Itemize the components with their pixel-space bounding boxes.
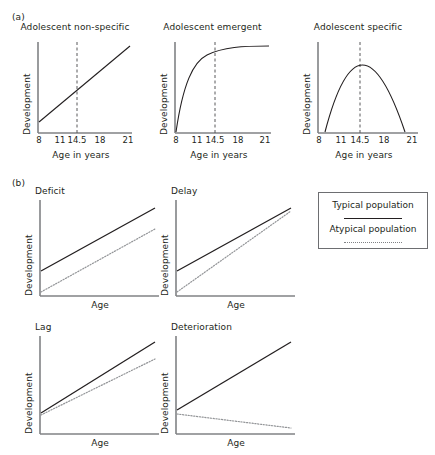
series-atypical-population xyxy=(177,211,291,292)
x-tick-label: 14.5 xyxy=(350,135,370,145)
legend-label-atypical: Atypical population xyxy=(319,224,427,234)
x-tick-label: 18 xyxy=(93,135,107,145)
x-axis-label: Age xyxy=(176,438,296,448)
chart-deterioration: Deterioration Development Age xyxy=(158,322,298,455)
series-typical-population xyxy=(177,342,291,410)
series-atypical-population xyxy=(177,414,291,428)
panel-label-a: (a) xyxy=(12,12,25,22)
x-axis-label: Age in years xyxy=(26,150,136,160)
plot-area xyxy=(288,22,428,167)
series-typical-population xyxy=(176,46,269,132)
plot-area xyxy=(158,322,298,455)
legend: Typical population Atypical population xyxy=(318,192,428,249)
x-tick-label: 8 xyxy=(169,135,183,145)
x-tick-label: 18 xyxy=(377,135,391,145)
x-axis-label: Age xyxy=(40,438,160,448)
series-typical-population xyxy=(41,208,155,271)
x-tick-label: 21 xyxy=(121,135,135,145)
series-typical-population xyxy=(177,208,291,271)
x-tick-label: 14.5 xyxy=(67,135,87,145)
x-tick-label: 14.5 xyxy=(205,135,225,145)
chart-deficit: Deficit Development Age xyxy=(22,186,162,316)
chart-lag: Lag Development Age xyxy=(22,322,162,455)
legend-swatch-typical-line xyxy=(344,218,402,219)
x-tick-label: 8 xyxy=(312,135,326,145)
plot-area xyxy=(158,186,298,316)
x-axis-label: Age xyxy=(176,300,296,310)
series-typical-population xyxy=(39,46,130,122)
figure-root: (a) Adolescent non-specific Development … xyxy=(0,0,435,455)
x-tick-label: 21 xyxy=(258,135,272,145)
x-axis-label: Age in years xyxy=(163,150,275,160)
x-axis-label: Age in years xyxy=(308,150,420,160)
x-axis-label: Age xyxy=(40,300,160,310)
series-atypical-population xyxy=(41,229,155,292)
chart-adolescent-emergent: Adolescent emergent Development 8 11 14.… xyxy=(145,22,280,167)
x-tick-label: 11 xyxy=(190,135,204,145)
chart-adolescent-specific: Adolescent specific Development 8 11 14.… xyxy=(288,22,428,167)
series-typical-population xyxy=(41,342,155,413)
chart-adolescent-non-specific: Adolescent non-specific Development 8 11… xyxy=(10,22,140,167)
plot-area xyxy=(10,22,140,167)
x-tick-label: 8 xyxy=(32,135,46,145)
series-typical-population xyxy=(325,65,405,132)
legend-swatch-atypical-line xyxy=(344,242,402,243)
plot-area xyxy=(145,22,280,167)
chart-delay: Delay Development Age xyxy=(158,186,298,316)
legend-label-typical: Typical population xyxy=(319,200,427,210)
x-tick-label: 11 xyxy=(334,135,348,145)
plot-area xyxy=(22,186,162,316)
x-tick-label: 21 xyxy=(405,135,419,145)
plot-area xyxy=(22,322,162,455)
x-tick-label: 11 xyxy=(53,135,67,145)
series-atypical-population xyxy=(41,359,155,415)
x-tick-label: 18 xyxy=(231,135,245,145)
